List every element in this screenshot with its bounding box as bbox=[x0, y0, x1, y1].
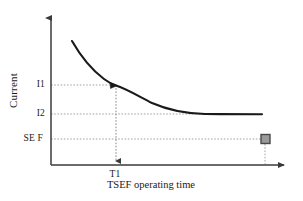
current-decay-curve bbox=[72, 41, 262, 114]
tsef-current-decay-figure: Current I1 I2 SE F T1 TSEF operating tim… bbox=[0, 0, 303, 201]
x-axis-title: TSEF operating time bbox=[51, 180, 251, 191]
plot-canvas bbox=[0, 0, 303, 201]
y-tick-label-sef: SE F bbox=[3, 134, 43, 144]
y-tick-label-i1: I1 bbox=[5, 80, 45, 90]
sef-operating-point-marker bbox=[261, 135, 270, 144]
intersection-marker-t1-i1 bbox=[110, 83, 118, 89]
y-tick-label-i2: I2 bbox=[5, 109, 45, 119]
